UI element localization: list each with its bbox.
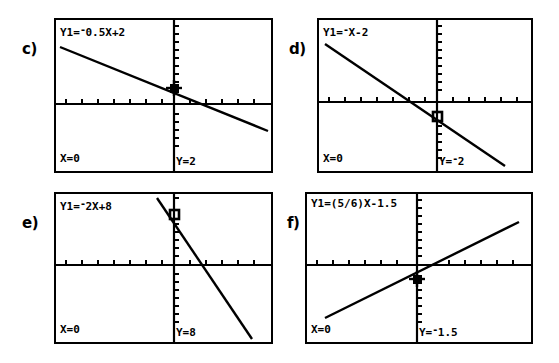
equation-prefix-d: Y1= (323, 26, 343, 39)
graph-plot-c (56, 20, 271, 171)
x-readout-c: X=0 (60, 153, 80, 164)
y-axis-f (417, 194, 422, 342)
trace-cursor-f (409, 271, 425, 287)
y-readout-value-e: 8 (189, 326, 196, 339)
x-readout-e: X=0 (60, 324, 80, 335)
graph-line-d (325, 44, 505, 166)
y-readout-prefix-c: Y= (176, 155, 189, 168)
y-readout-prefix-e: Y= (176, 326, 189, 339)
graph-line-f (325, 222, 519, 318)
y-readout-value-d: 2 (458, 155, 465, 168)
panel-label-d: d) (289, 40, 306, 58)
y-readout-d: Y=-2 (439, 153, 464, 167)
y-axis-d (437, 20, 442, 171)
equation-body-e: 2X+8 (85, 200, 112, 213)
x-axis-f (307, 260, 531, 265)
equation-prefix-e: Y1= (60, 200, 80, 213)
x-readout-f: X=0 (311, 324, 331, 335)
graph-plot-f (307, 194, 531, 342)
y-readout-f: Y=-1.5 (419, 324, 458, 338)
trace-cursor-c (166, 80, 182, 96)
graph-line-c (60, 47, 268, 131)
x-axis-c (56, 99, 271, 104)
y-readout-prefix-f: Y= (419, 326, 432, 339)
graph-plot-e (56, 194, 271, 342)
y-readout-c: Y=2 (176, 153, 196, 167)
calculator-screen-d: Y1=-X-2 X=0 Y=-2 (317, 18, 533, 173)
calculator-screen-f: Y1=(5/6)X-1.5 X=0 Y=-1.5 (305, 192, 533, 344)
x-readout-d: X=0 (323, 153, 343, 164)
graph-plot-d (319, 20, 531, 171)
panel-label-f: f) (287, 214, 299, 232)
equation-readout-e: Y1=-2X+8 (60, 198, 112, 212)
panel-label-e: e) (22, 214, 38, 232)
x-axis-e (56, 260, 271, 265)
equation-readout-f: Y1=(5/6)X-1.5 (311, 198, 397, 209)
equation-readout-d: Y1=-X-2 (323, 24, 368, 38)
calculator-screen-e: Y1=-2X+8 X=0 Y=8 (54, 192, 273, 344)
equation-body-c: 0.5X+2 (85, 26, 125, 39)
x-axis-d (319, 97, 531, 102)
panel-label-c: c) (22, 40, 37, 58)
y-readout-value-c: 2 (189, 155, 196, 168)
equation-body-d: X-2 (348, 26, 368, 39)
calculator-screen-c: Y1=-0.5X+2 X=0 Y=2 (54, 18, 273, 173)
y-readout-value-f: 1.5 (438, 326, 458, 339)
equation-prefix-c: Y1= (60, 26, 80, 39)
y-readout-e: Y=8 (176, 324, 196, 338)
equation-readout-c: Y1=-0.5X+2 (60, 24, 125, 38)
worksheet-figure: c) (0, 0, 559, 363)
y-readout-prefix-d: Y= (439, 155, 452, 168)
